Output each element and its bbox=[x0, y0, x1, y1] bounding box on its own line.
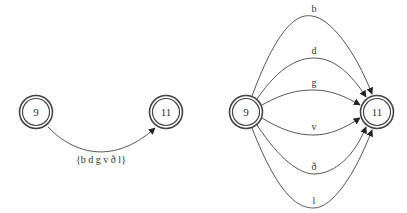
edge-g bbox=[262, 90, 360, 105]
edge-label-b: b bbox=[312, 3, 317, 14]
edge-label-eth: ð bbox=[312, 161, 317, 172]
node-9-left[interactable]: 9 bbox=[20, 96, 53, 129]
node-11-right[interactable]: 11 bbox=[361, 96, 394, 129]
edge-label: {b d g v ð l} bbox=[76, 154, 126, 165]
node-label: 9 bbox=[33, 106, 39, 118]
edge-label-g: g bbox=[312, 77, 317, 88]
edge-label-v: v bbox=[312, 121, 317, 132]
edge-label-d: d bbox=[312, 45, 317, 56]
right-graph: 9 11 b d g v ð l bbox=[230, 3, 394, 208]
node-9-right[interactable]: 9 bbox=[230, 96, 263, 129]
edge-label-l: l bbox=[313, 195, 316, 206]
left-graph: 9 11 {b d g v ð l} bbox=[20, 96, 183, 166]
node-label: 11 bbox=[161, 106, 172, 118]
node-11-left[interactable]: 11 bbox=[150, 96, 183, 129]
edge-9-11 bbox=[48, 127, 155, 152]
diagram-canvas: 9 11 {b d g v ð l} 9 11 b d g bbox=[0, 0, 407, 213]
node-label: 9 bbox=[243, 106, 249, 118]
node-label: 11 bbox=[372, 106, 383, 118]
